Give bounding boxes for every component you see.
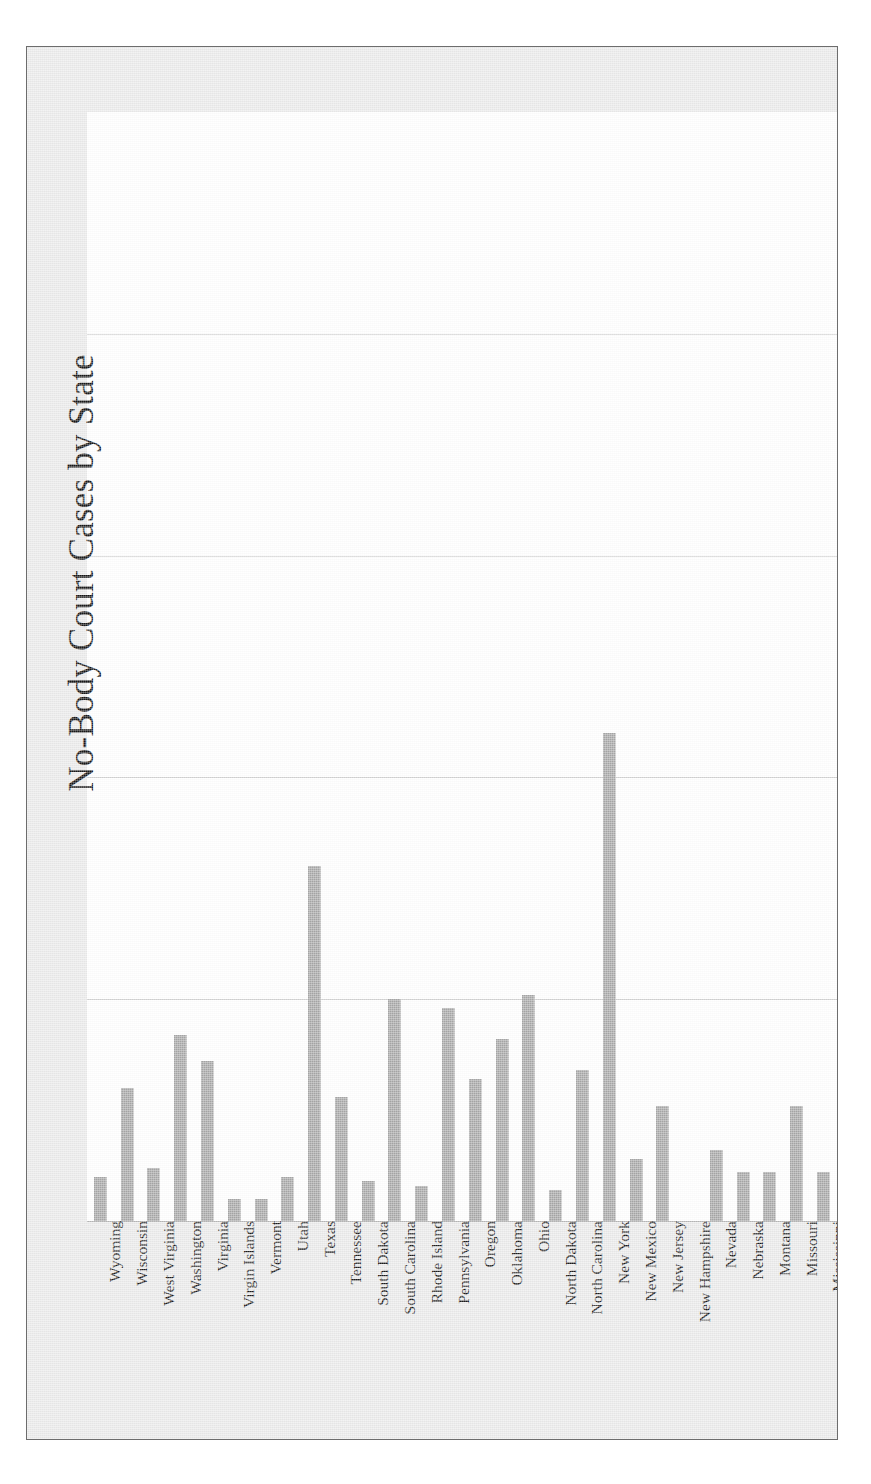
bar-slot — [355, 112, 382, 1221]
chart-frame: No-Body Court Cases by State WyomingWisc… — [26, 46, 838, 1440]
bar-slot — [489, 112, 516, 1221]
bar — [228, 1199, 241, 1221]
bar-slot — [141, 112, 168, 1221]
bar-slot — [462, 112, 489, 1221]
label-slot: Utah — [274, 1221, 301, 1371]
bar — [469, 1079, 482, 1221]
label-slot: New Mexico — [623, 1221, 650, 1371]
bar — [255, 1199, 268, 1221]
bar — [308, 866, 321, 1221]
label-slot: Ohio — [516, 1221, 543, 1371]
bar — [388, 999, 401, 1221]
label-slot: Oregon — [462, 1221, 489, 1371]
label-slot: Pennsylvania — [435, 1221, 462, 1371]
bar-slot — [569, 112, 596, 1221]
bar — [147, 1168, 160, 1221]
label-slot: Montana — [757, 1221, 784, 1371]
bar-slot — [623, 112, 650, 1221]
bar — [281, 1177, 294, 1221]
label-slot: Rhode Island — [408, 1221, 435, 1371]
label-slot: Mississippi — [810, 1221, 837, 1371]
bar — [522, 995, 535, 1221]
bar-slot — [783, 112, 810, 1221]
label-slot: New Hampshire — [676, 1221, 703, 1371]
bar-slot — [248, 112, 275, 1221]
bar — [496, 1039, 509, 1221]
label-slot: Virgin Islands — [221, 1221, 248, 1371]
label-slot: West Virginia — [141, 1221, 168, 1371]
bar-slot — [516, 112, 543, 1221]
bar-slot — [301, 112, 328, 1221]
bar — [630, 1159, 643, 1221]
plot-area — [87, 112, 837, 1221]
bar-slot — [408, 112, 435, 1221]
bar — [656, 1106, 669, 1221]
bar-slot — [649, 112, 676, 1221]
bar — [201, 1061, 214, 1221]
value-axis-line — [837, 112, 839, 1221]
label-slot: Washington — [167, 1221, 194, 1371]
bar-slot — [703, 112, 730, 1221]
bar — [603, 733, 616, 1221]
bar — [415, 1186, 428, 1221]
label-slot: Tennessee — [328, 1221, 355, 1371]
bar — [442, 1008, 455, 1221]
bar-slot — [167, 112, 194, 1221]
bar — [576, 1070, 589, 1221]
bar-slot — [274, 112, 301, 1221]
label-slot: North Carolina — [569, 1221, 596, 1371]
bar-slot — [757, 112, 784, 1221]
bar — [710, 1150, 723, 1221]
bar-slot — [194, 112, 221, 1221]
label-slot: Texas — [301, 1221, 328, 1371]
label-slot: New Jersey — [649, 1221, 676, 1371]
label-slot: Vermont — [248, 1221, 275, 1371]
label-slot: Nevada — [703, 1221, 730, 1371]
bar-series — [87, 112, 837, 1221]
label-slot: South Dakota — [355, 1221, 382, 1371]
bar — [817, 1172, 830, 1221]
label-slot: Wisconsin — [114, 1221, 141, 1371]
label-slot: South Carolina — [382, 1221, 409, 1371]
bar — [121, 1088, 134, 1221]
label-slot: New York — [596, 1221, 623, 1371]
category-axis-labels: WyomingWisconsinWest VirginiaWashingtonV… — [87, 1221, 837, 1371]
bar-slot — [810, 112, 837, 1221]
label-slot: Nebraska — [730, 1221, 757, 1371]
bar — [174, 1035, 187, 1221]
bar — [549, 1190, 562, 1221]
label-slot: Wyoming — [87, 1221, 114, 1371]
bar-slot — [221, 112, 248, 1221]
bar — [763, 1172, 776, 1221]
bar — [94, 1177, 107, 1221]
label-slot: Virginia — [194, 1221, 221, 1371]
bar-slot — [542, 112, 569, 1221]
category-label: Mississippi — [830, 1221, 838, 1292]
label-slot: Missouri — [783, 1221, 810, 1371]
bar-slot — [596, 112, 623, 1221]
bar — [737, 1172, 750, 1221]
label-slot: North Dakota — [542, 1221, 569, 1371]
bar — [362, 1181, 375, 1221]
bar — [790, 1106, 803, 1221]
bar-slot — [114, 112, 141, 1221]
bar-slot — [676, 112, 703, 1221]
bar — [335, 1097, 348, 1221]
bar-slot — [382, 112, 409, 1221]
chart-title: No-Body Court Cases by State — [54, 46, 110, 1103]
label-slot: Oklahoma — [489, 1221, 516, 1371]
bar-slot — [730, 112, 757, 1221]
bar-slot — [328, 112, 355, 1221]
bar-slot — [435, 112, 462, 1221]
